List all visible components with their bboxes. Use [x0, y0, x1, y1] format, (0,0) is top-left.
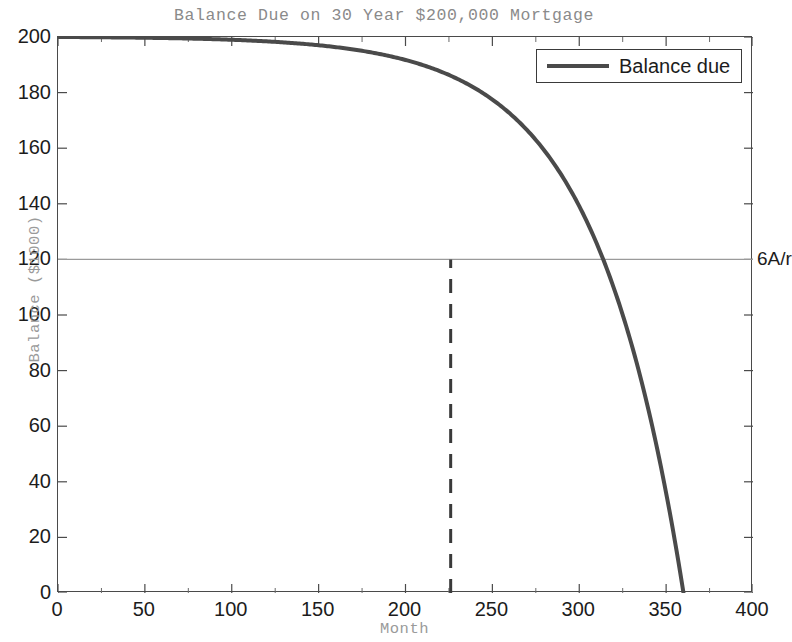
- reference-line-annotation: 6A/r: [757, 248, 792, 270]
- legend-color-swatch: [547, 64, 609, 68]
- x-tick-label: 350: [648, 598, 681, 621]
- x-axis-title: Month: [57, 620, 752, 638]
- y-axis-title: Balance ($1000): [26, 149, 44, 429]
- legend-entry-label: Balance due: [619, 56, 730, 76]
- chart-legend: Balance due: [536, 49, 742, 83]
- y-tick-label: 20: [29, 525, 51, 548]
- x-tick-label: 300: [562, 598, 595, 621]
- y-tick-label: 40: [29, 469, 51, 492]
- y-tick-label: 200: [18, 25, 51, 48]
- x-tick-label: 100: [214, 598, 247, 621]
- x-tick-label: 150: [301, 598, 334, 621]
- x-tick-label: 250: [475, 598, 508, 621]
- x-tick-label: 50: [133, 598, 155, 621]
- x-tick-label: 400: [735, 598, 768, 621]
- x-tick-label: 200: [388, 598, 421, 621]
- balance-due-curve: [58, 37, 684, 593]
- x-tick-label: 0: [51, 598, 62, 621]
- y-tick-label: 0: [40, 581, 51, 604]
- plot-canvas: [58, 37, 753, 593]
- plot-area: [57, 36, 752, 592]
- y-tick-label: 180: [18, 80, 51, 103]
- chart-title: Balance Due on 30 Year $200,000 Mortgage: [0, 6, 768, 25]
